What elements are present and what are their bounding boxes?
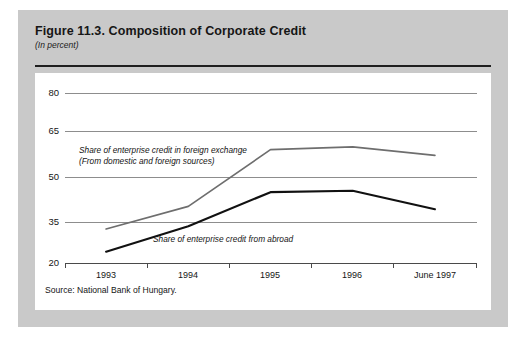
figure-panel: Figure 11.3. Composition of Corporate Cr…	[18, 10, 508, 327]
page-title: Figure 11.3. Composition of Corporate Cr…	[35, 24, 491, 38]
plot-card: 80 65 50 35 20 1993 1994 1995 1996 June …	[35, 73, 491, 310]
figure-header: Figure 11.3. Composition of Corporate Cr…	[35, 24, 491, 50]
figure-subtitle: (In percent)	[35, 40, 491, 50]
annotation-foreign-exchange-line1: Share of enterprise credit in foreign ex…	[79, 145, 247, 156]
annotation-foreign-exchange: Share of enterprise credit in foreign ex…	[79, 145, 247, 166]
annotation-from-abroad: Share of enterprise credit from abroad	[153, 234, 293, 245]
header-divider	[35, 65, 491, 67]
chart-plot-area: 80 65 50 35 20 1993 1994 1995 1996 June …	[35, 73, 491, 273]
annotation-foreign-exchange-line2: (From domestic and foreign sources)	[79, 156, 247, 167]
source-note: Source: National Bank of Hungary.	[45, 285, 177, 295]
